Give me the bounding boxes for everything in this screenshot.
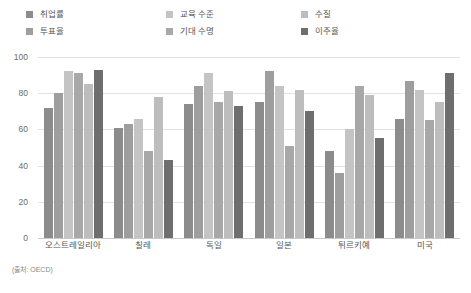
y-axis: 020406080100 xyxy=(0,57,34,238)
bar-오스트레일리아-교육 수준[interactable] xyxy=(64,71,73,238)
bar-일본-수질[interactable] xyxy=(295,90,304,238)
bar-group-미국 xyxy=(390,57,460,238)
legend-item-수질[interactable]: 수질 xyxy=(301,8,441,21)
x-axis-tick-label: 독일 xyxy=(179,241,249,257)
bar-튀르키예-취업률[interactable] xyxy=(325,151,334,238)
legend-swatch-icon xyxy=(26,11,33,18)
legend-item-취업률[interactable]: 취업률 xyxy=(26,8,166,21)
x-axis-tick-label: 미국 xyxy=(390,241,460,257)
legend-swatch-icon xyxy=(166,11,173,18)
legend-item-label: 투표율 xyxy=(40,27,64,36)
legend-item-이주율[interactable]: 이주율 xyxy=(301,25,441,38)
bar-group-일본 xyxy=(249,57,319,238)
source-note: (출처: OECD) xyxy=(12,266,53,273)
x-axis-tick-label: 칠레 xyxy=(108,241,178,257)
y-axis-tick-label: 0 xyxy=(23,234,28,243)
bar-group-독일 xyxy=(179,57,249,238)
bar-일본-교육 수준[interactable] xyxy=(275,86,284,238)
bar-독일-취업률[interactable] xyxy=(184,104,193,238)
bar-튀르키예-수질[interactable] xyxy=(365,95,374,238)
bar-튀르키예-이주율[interactable] xyxy=(375,138,384,238)
bar-칠레-수질[interactable] xyxy=(154,97,163,238)
bar-미국-기대 수명[interactable] xyxy=(425,120,434,238)
bar-미국-이주율[interactable] xyxy=(445,73,454,238)
y-axis-tick-label: 80 xyxy=(19,89,28,98)
bar-독일-기대 수명[interactable] xyxy=(214,102,223,238)
bar-group-오스트레일리아 xyxy=(38,57,108,238)
y-axis-tick-label: 40 xyxy=(19,161,28,170)
bar-group-칠레 xyxy=(108,57,178,238)
bar-튀르키예-교육 수준[interactable] xyxy=(345,129,354,238)
bar-chart-figure: 취업률투표율교육 수준기대 수명수질이주율 020406080100 오스트레일… xyxy=(0,0,471,293)
x-axis-tick-label: 튀르키예 xyxy=(319,241,389,257)
bar-일본-투표율[interactable] xyxy=(265,71,274,238)
bar-칠레-교육 수준[interactable] xyxy=(134,119,143,238)
bar-미국-교육 수준[interactable] xyxy=(415,90,424,238)
x-axis: 오스트레일리아칠레독일일본튀르키예미국 xyxy=(38,241,460,257)
bar-칠레-취업률[interactable] xyxy=(114,128,123,238)
x-axis-tick-label: 일본 xyxy=(249,241,319,257)
legend-item-교육 수준[interactable]: 교육 수준 xyxy=(166,8,301,21)
bar-오스트레일리아-취업률[interactable] xyxy=(44,108,53,238)
bars-layer xyxy=(38,57,460,238)
legend-swatch-icon xyxy=(26,28,33,35)
legend-swatch-icon xyxy=(301,28,308,35)
legend-item-label: 기대 수명 xyxy=(180,27,214,36)
legend-item-label: 교육 수준 xyxy=(180,10,214,19)
legend-column-2: 수질이주율 xyxy=(301,8,441,44)
legend-item-기대 수명[interactable]: 기대 수명 xyxy=(166,25,301,38)
legend-swatch-icon xyxy=(301,11,308,18)
plot-area xyxy=(38,57,460,238)
bar-오스트레일리아-이주율[interactable] xyxy=(94,70,103,238)
legend-column-1: 교육 수준기대 수명 xyxy=(166,8,301,44)
chart-legend: 취업률투표율교육 수준기대 수명수질이주율 xyxy=(0,8,471,44)
bar-칠레-투표율[interactable] xyxy=(124,124,133,238)
y-axis-tick-label: 60 xyxy=(19,125,28,134)
legend-swatch-icon xyxy=(166,28,173,35)
y-axis-tick-label: 100 xyxy=(14,53,28,62)
bar-미국-취업률[interactable] xyxy=(395,119,404,238)
bar-독일-이주율[interactable] xyxy=(234,106,243,238)
bar-일본-취업률[interactable] xyxy=(255,102,264,238)
legend-item-label: 수질 xyxy=(315,10,331,19)
bar-group-튀르키예 xyxy=(319,57,389,238)
y-axis-tick-label: 20 xyxy=(19,198,28,207)
bar-튀르키예-투표율[interactable] xyxy=(335,173,344,238)
bar-독일-수질[interactable] xyxy=(224,91,233,238)
legend-column-0: 취업률투표율 xyxy=(26,8,166,44)
bar-오스트레일리아-기대 수명[interactable] xyxy=(74,73,83,238)
bar-칠레-기대 수명[interactable] xyxy=(144,151,153,238)
bar-일본-이주율[interactable] xyxy=(305,111,314,238)
gridline-0 xyxy=(38,238,460,239)
bar-독일-교육 수준[interactable] xyxy=(204,73,213,238)
legend-item-투표율[interactable]: 투표율 xyxy=(26,25,166,38)
legend-item-label: 이주율 xyxy=(315,27,339,36)
bar-칠레-이주율[interactable] xyxy=(164,160,173,238)
bar-독일-투표율[interactable] xyxy=(194,86,203,238)
bar-미국-수질[interactable] xyxy=(435,102,444,238)
bar-튀르키예-기대 수명[interactable] xyxy=(355,86,364,238)
x-axis-tick-label: 오스트레일리아 xyxy=(38,241,108,257)
bar-미국-투표율[interactable] xyxy=(405,81,414,238)
legend-item-label: 취업률 xyxy=(40,10,64,19)
bar-오스트레일리아-투표율[interactable] xyxy=(54,93,63,238)
bar-일본-기대 수명[interactable] xyxy=(285,146,294,238)
bar-오스트레일리아-수질[interactable] xyxy=(84,84,93,238)
